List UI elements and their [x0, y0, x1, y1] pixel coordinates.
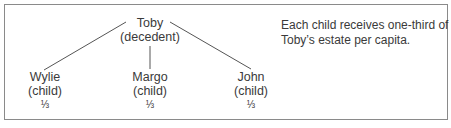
connector-toby-wylie — [44, 22, 126, 70]
note-line-1: Each child receives one-third of — [281, 18, 448, 33]
node-name: John — [234, 70, 268, 84]
node-role: (child) — [234, 84, 268, 98]
node-wylie: Wylie (child) ⅓ — [28, 70, 62, 112]
node-share: ⅓ — [28, 98, 62, 112]
node-role: (child) — [132, 84, 167, 98]
node-share: ⅓ — [234, 98, 268, 112]
node-role: (decedent) — [120, 30, 180, 44]
node-john: John (child) ⅓ — [234, 70, 268, 112]
note-line-2: Toby’s estate per capita. — [281, 33, 448, 48]
connector-toby-john — [170, 22, 251, 69]
explanation-note: Each child receives one-third of Toby’s … — [281, 18, 448, 48]
node-role: (child) — [28, 84, 62, 98]
node-name: Wylie — [28, 70, 62, 84]
node-margo: Margo (child) ⅓ — [132, 70, 167, 112]
node-share: ⅓ — [132, 98, 167, 112]
node-name: Toby — [120, 16, 180, 30]
node-name: Margo — [132, 70, 167, 84]
node-toby: Toby (decedent) — [120, 16, 180, 44]
